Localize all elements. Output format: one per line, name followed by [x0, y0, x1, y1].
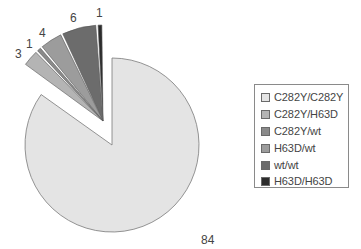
legend-label: H63D/H63D: [274, 175, 332, 187]
legend-label: wt/wt: [274, 159, 299, 171]
legend-label: H63D/wt: [274, 142, 315, 154]
legend-item-c282y-wt: C282Y/wt: [261, 125, 321, 137]
pie-slices: [25, 25, 199, 232]
legend-swatch: [261, 127, 270, 136]
legend-label: C282Y/wt: [274, 125, 321, 137]
legend-label: C282Y/C282Y: [274, 91, 343, 103]
legend-item-wt-wt: wt/wt: [261, 159, 299, 171]
legend-label: C282Y/H63D: [274, 108, 338, 120]
data-label-c282y-h63d: 3: [15, 47, 22, 61]
legend-swatch: [261, 161, 270, 170]
legend-swatch: [261, 177, 270, 186]
data-label-c282y-wt: 1: [26, 37, 33, 51]
data-label-c282y-c282y: 84: [201, 233, 215, 247]
legend-swatch: [261, 144, 270, 153]
legend-item-h63d-h63d: H63D/H63D: [261, 175, 332, 187]
legend-item-c282y-h63d: C282Y/H63D: [261, 108, 338, 120]
legend-swatch: [261, 93, 270, 102]
data-label-wt-wt: 6: [70, 11, 77, 25]
chart-legend: C282Y/C282Y C282Y/H63D C282Y/wt H63D/wt …: [254, 84, 349, 188]
pie-slice-c282y-c282y: [25, 58, 199, 232]
legend-item-h63d-wt: H63D/wt: [261, 142, 315, 154]
legend-item-c282y-c282y: C282Y/C282Y: [261, 91, 343, 103]
data-label-h63d-wt: 4: [39, 26, 46, 40]
data-label-h63d-h63d: 1: [96, 6, 103, 20]
legend-swatch: [261, 110, 270, 119]
